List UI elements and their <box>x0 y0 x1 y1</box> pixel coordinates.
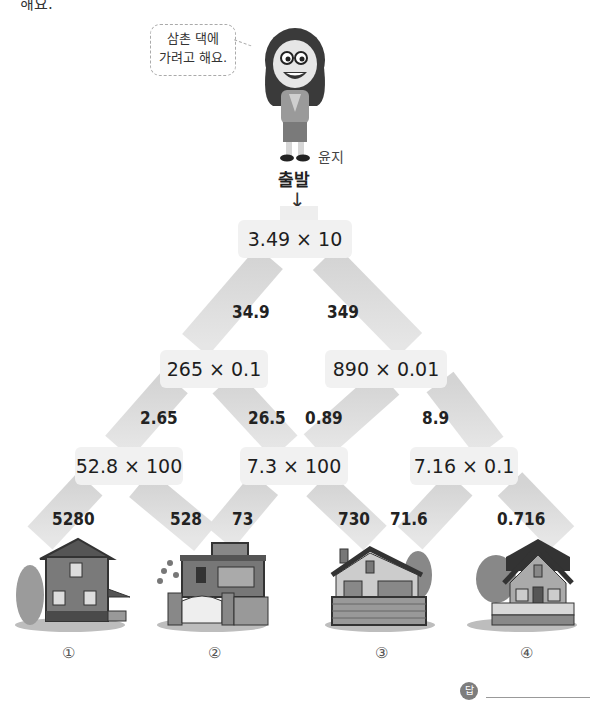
node-265x0-1: 265 × 0.1 <box>160 350 268 388</box>
node-7-3x100: 7.3 × 100 <box>240 447 348 485</box>
path-value: 349 <box>327 302 359 322</box>
path-value: 5280 <box>52 509 95 529</box>
answer-input-line[interactable] <box>486 697 590 698</box>
path-value: 2.65 <box>140 408 178 428</box>
path-value: 0.89 <box>305 408 343 428</box>
answer-icon: 답 <box>460 682 478 700</box>
house-number-2: ② <box>208 644 221 662</box>
house-1-brick-illustration <box>8 535 133 635</box>
path-value: 528 <box>170 509 202 529</box>
path-value: 71.6 <box>390 509 428 529</box>
node-52-8x100: 52.8 × 100 <box>75 447 183 485</box>
house-number-1: ① <box>62 644 75 662</box>
node-3-49x10: 3.49 × 10 <box>238 220 352 258</box>
house-number-3: ③ <box>375 644 388 662</box>
path-value: 0.716 <box>497 509 545 529</box>
house-4-roof-illustration <box>460 535 585 635</box>
path-value: 730 <box>338 509 370 529</box>
node-7-16x0-1: 7.16 × 0.1 <box>410 447 518 485</box>
node-890x0-01: 890 × 0.01 <box>325 350 447 388</box>
house-number-4: ④ <box>520 644 533 662</box>
path-value: 26.5 <box>248 408 286 428</box>
path-value: 8.9 <box>422 408 449 428</box>
path-value: 73 <box>232 509 253 529</box>
house-3-wall-illustration <box>318 535 443 635</box>
path-value: 34.9 <box>232 302 270 322</box>
house-2-gate-illustration <box>150 535 275 635</box>
